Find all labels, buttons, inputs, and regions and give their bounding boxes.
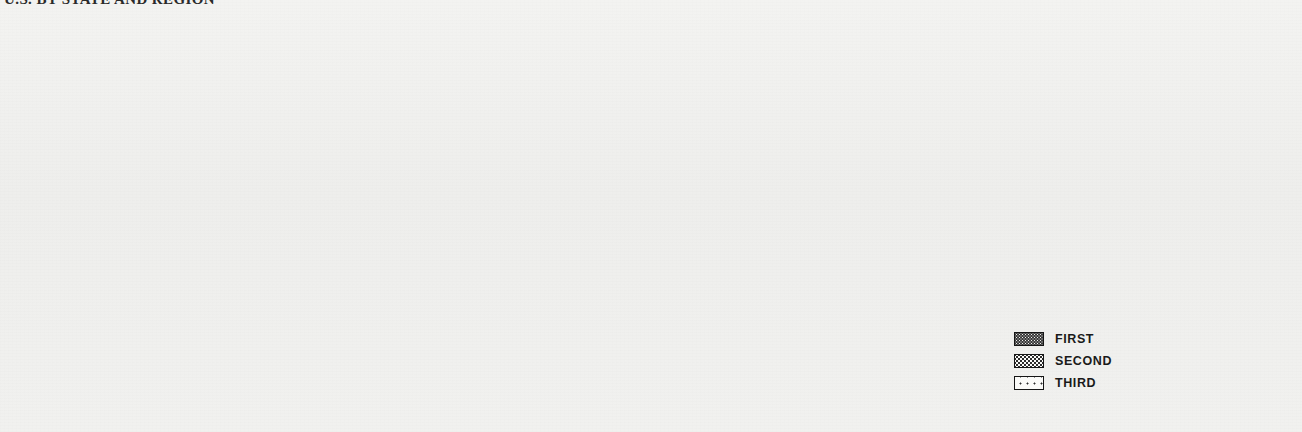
state-map-svg (0, 0, 660, 432)
legend-swatch-first-icon (1014, 332, 1044, 346)
state-shape-florida (444, 312, 546, 366)
region-level-map (648, 0, 1302, 432)
hawaii-inset (136, 368, 308, 408)
legend-item-third: THIRD (1014, 374, 1112, 392)
legend-label-third: THIRD (1055, 377, 1096, 390)
legend-item-second: SECOND (1014, 352, 1112, 370)
legend-label-first: FIRST (1055, 333, 1094, 346)
alaska-outline (30, 276, 172, 406)
legend-label-second: SECOND (1055, 355, 1112, 368)
state-shape-alabama (396, 248, 444, 314)
hawaii-inset (773, 365, 945, 405)
alaska-outline (675, 272, 817, 402)
state-shape-massachusetts-connecticut (542, 92, 592, 114)
region-shape-south-atlantic (992, 116, 1192, 354)
region-map-svg (648, 0, 1302, 432)
legend-swatch-second-icon (1014, 354, 1044, 368)
legend-item-first: FIRST (1014, 330, 1112, 348)
legend-swatch-third-icon (1014, 376, 1044, 390)
page-title: U.S. BY STATE AND REGION (4, 0, 215, 8)
state-level-map (0, 0, 660, 432)
map-legend: FIRST SECOND THIRD (1014, 330, 1112, 396)
